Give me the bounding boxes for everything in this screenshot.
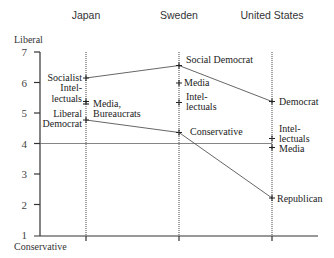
tick-label-2: 2 (22, 199, 28, 211)
label-democrat: Democrat (279, 96, 319, 107)
label-us-media: Media (279, 143, 305, 154)
tick-label-4: 4 (22, 138, 28, 150)
header-sweden: Sweden (160, 9, 198, 21)
label-japan-intellectuals-2: lectuals (51, 93, 82, 104)
label-democrat-ld: Democrat (43, 118, 83, 129)
label-japan-intellectuals-1: Intel- (60, 82, 82, 93)
tick-label-1: 1 (22, 229, 28, 241)
label-sweden-intellectuals-2: lectuals (186, 101, 217, 112)
label-sweden-media: Media (184, 77, 210, 88)
label-japan-bureaucrats: Bureaucrats (93, 108, 141, 119)
ideology-chart: Japan Sweden United States Liberal Conse… (0, 0, 334, 258)
header-japan: Japan (72, 9, 101, 21)
x-axis (34, 236, 318, 241)
y-axis (34, 52, 40, 236)
tick-label-5: 5 (22, 107, 28, 119)
y-axis-bottom-label: Conservative (14, 241, 67, 252)
y-axis-top-label: Liberal (14, 34, 43, 45)
header-united-states: United States (240, 9, 303, 21)
tick-label-6: 6 (22, 77, 28, 89)
label-social-democrat: Social Democrat (186, 54, 253, 65)
tick-label-3: 3 (22, 168, 28, 180)
label-republican: Republican (277, 193, 323, 204)
sweden-labels: Social Democrat Media Intel- lectuals Co… (184, 54, 253, 137)
tick-label-7: 7 (22, 46, 28, 58)
us-labels: Democrat Intel- lectuals Media Republica… (277, 96, 323, 204)
country-axes (86, 52, 272, 236)
y-axis-tick-labels: 7 6 5 4 3 2 1 (22, 46, 28, 241)
label-conservative: Conservative (190, 126, 243, 137)
